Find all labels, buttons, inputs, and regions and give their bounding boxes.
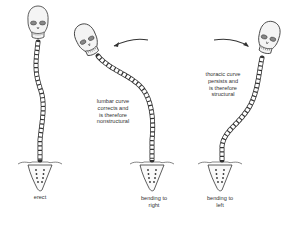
annotation-thoracic-curve: thoracic curve persists and is therefore… — [196, 71, 250, 98]
arrow-left-bend — [214, 39, 248, 46]
skull-icon — [255, 19, 283, 56]
panel-erect — [18, 6, 62, 191]
pelvis-icon — [130, 162, 174, 191]
caption-erect: erect — [24, 194, 56, 201]
skull-icon — [71, 20, 103, 58]
panel-bending-left — [198, 19, 283, 191]
caption-bending-right: bending to right — [134, 195, 174, 208]
scoliosis-diagram — [0, 0, 308, 226]
annotation-lumbar-curve: lumbar curve corrects and is therefore n… — [88, 98, 138, 125]
pelvis-icon — [198, 162, 242, 191]
arrow-right-bend — [114, 39, 148, 46]
caption-bending-left: bending to left — [200, 195, 240, 208]
pelvis-icon — [18, 162, 62, 191]
skull-icon — [28, 6, 48, 39]
